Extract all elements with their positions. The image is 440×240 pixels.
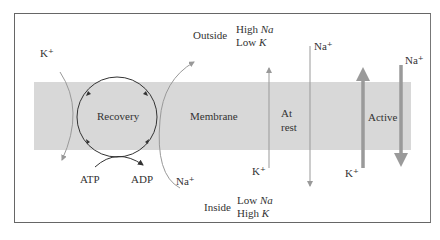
na-outward-arrow-icon <box>159 62 194 188</box>
membrane-label: Membrane <box>190 110 238 122</box>
k-inward-arrow-icon <box>60 72 73 160</box>
inside-label: Inside <box>204 201 231 213</box>
recovery-label: Recovery <box>97 110 139 122</box>
active-label: Active <box>368 111 397 123</box>
at-rest-label-line1: At <box>281 107 292 119</box>
outside-label: Outside <box>193 29 227 41</box>
inside-low-na: Low Na <box>237 194 273 206</box>
recovery-k-label: K⁺ <box>40 47 54 59</box>
active-na-label: Na⁺ <box>405 54 424 66</box>
recovery-na-label: Na⁺ <box>176 175 195 187</box>
at-rest-label-line2: rest <box>281 121 297 133</box>
inside-high-k: High K <box>237 207 269 219</box>
atp-adp-arrow-icon <box>95 156 143 167</box>
adp-label: ADP <box>131 173 153 185</box>
active-k-label: K⁺ <box>345 167 359 179</box>
rest-k-label: K⁺ <box>252 165 266 177</box>
atp-label: ATP <box>80 173 100 185</box>
outside-low-k: Low K <box>236 36 266 48</box>
outside-high-na: High Na <box>236 23 274 35</box>
rest-na-label: Na⁺ <box>314 40 333 52</box>
